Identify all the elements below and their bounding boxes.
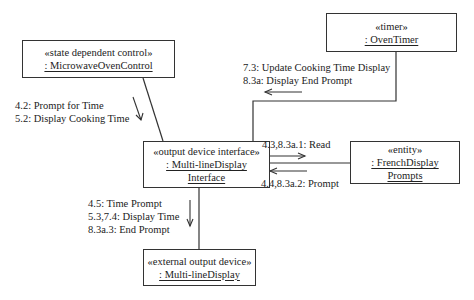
- message-group-timer-to-interface: 7.3: Update Cooking Time Display 8.3a: D…: [243, 61, 390, 87]
- object-french-display-prompts: «entity» : FrenchDisplay Prompts: [350, 141, 460, 184]
- stereotype-label: «external output device»: [148, 255, 252, 268]
- message-label: 8.3a.3: End Prompt: [88, 223, 179, 236]
- message-label: 4.4,8.3a.2: Prompt: [261, 177, 339, 190]
- object-name-line1: : FrenchDisplay: [371, 156, 438, 169]
- object-name: : Multi-lineDisplay: [159, 268, 240, 281]
- arrow-right-icon: [269, 153, 305, 159]
- link-control-interface: [143, 78, 163, 141]
- message-label: 7.3: Update Cooking Time Display: [243, 61, 390, 74]
- arrow-down-right-icon: [133, 97, 143, 120]
- stereotype-label: «output device interface»: [153, 145, 260, 158]
- stereotype-label: «state dependent control»: [45, 46, 153, 59]
- object-microwave-oven-control: «state dependent control» : MicrowaveOve…: [22, 40, 175, 78]
- object-name-line2: Interface: [188, 171, 225, 184]
- object-oven-timer: «timer» : OvenTimer: [326, 13, 457, 52]
- arrow-left-icon: [270, 168, 307, 174]
- message-group-control-to-interface: 4.2: Prompt for Time 5.2: Display Cookin…: [15, 99, 129, 125]
- object-name: : OvenTimer: [365, 33, 419, 46]
- message-group-prompts-to-interface: 4.4,8.3a.2: Prompt: [261, 177, 339, 190]
- message-label: 4.5: Time Prompt: [88, 197, 179, 210]
- object-name-line1: : Multi-lineDisplay: [166, 158, 247, 171]
- message-group-interface-to-prompts: 4.3,8.3a.1: Read: [262, 138, 331, 151]
- stereotype-label: «entity»: [388, 143, 422, 156]
- message-label: 4.2: Prompt for Time: [15, 99, 129, 112]
- object-multiline-display-interface: «output device interface» : Multi-lineDi…: [143, 141, 270, 188]
- object-external-multiline-display: «external output device» : Multi-lineDis…: [143, 249, 256, 286]
- message-group-interface-to-device: 4.5: Time Prompt 5.3,7.4: Display Time 8…: [88, 197, 179, 236]
- arrow-down-icon: [187, 200, 193, 226]
- message-label: 5.3,7.4: Display Time: [88, 210, 179, 223]
- object-name-line2: Prompts: [387, 169, 422, 182]
- arrow-left-icon: [265, 89, 302, 95]
- message-label: 5.2: Display Cooking Time: [15, 112, 129, 125]
- object-name: : MicrowaveOvenControl: [44, 59, 152, 72]
- message-label: 4.3,8.3a.1: Read: [262, 138, 331, 151]
- message-label: 8.3a: Display End Prompt: [243, 74, 390, 87]
- stereotype-label: «timer»: [375, 20, 408, 33]
